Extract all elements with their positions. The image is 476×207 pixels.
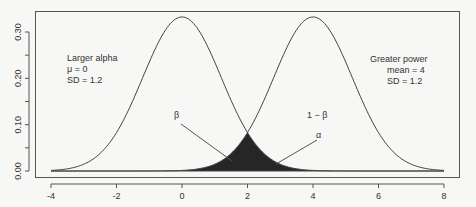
x-tick-label: 0 xyxy=(179,191,184,201)
one-minus-beta-label: 1 − β xyxy=(307,110,327,120)
right-title: Greater power xyxy=(370,54,428,64)
y-tick-label: 0.20 xyxy=(13,70,23,88)
alpha-pointer xyxy=(276,140,317,164)
left-mu: μ = 0 xyxy=(67,64,87,74)
right-sd: SD = 1.2 xyxy=(387,76,422,86)
y-axis: 0.000.100.200.30 xyxy=(13,23,29,180)
beta-label: β xyxy=(174,110,179,120)
y-tick-label: 0.30 xyxy=(13,23,23,41)
left-title: Larger alpha xyxy=(67,53,118,63)
x-tick-label: 4 xyxy=(310,191,315,201)
normal-distributions-chart: -4-202468 0.000.100.200.30 Larger alpha … xyxy=(0,0,476,207)
y-tick-label: 0.10 xyxy=(13,116,23,134)
y-tick-label: 0.00 xyxy=(13,162,23,180)
x-tick-label: 6 xyxy=(376,191,381,201)
beta-pointer xyxy=(181,124,232,161)
alpha-label: α xyxy=(316,130,321,140)
x-tick-label: 8 xyxy=(441,191,446,201)
x-tick-label: -2 xyxy=(112,191,120,201)
x-tick-label: -4 xyxy=(47,191,55,201)
overlap-shaded-area xyxy=(51,133,444,171)
x-axis: -4-202468 xyxy=(47,184,447,201)
left-sd: SD = 1.2 xyxy=(67,75,102,85)
x-tick-label: 2 xyxy=(245,191,250,201)
right-mean: mean = 4 xyxy=(387,65,425,75)
